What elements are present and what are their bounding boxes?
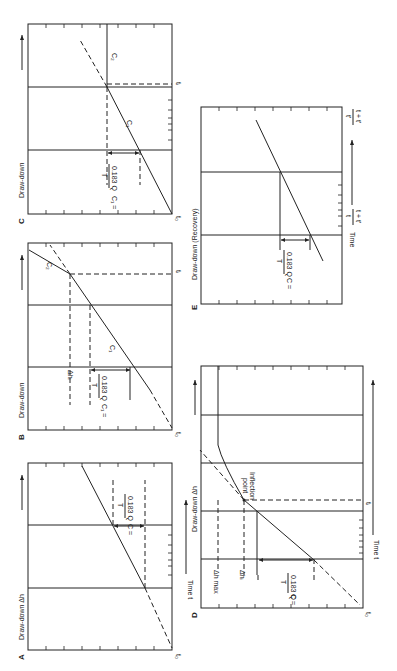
panel-b-c2-label: C₂ bbox=[46, 262, 53, 270]
panel-d-delta-max-label: Δh max bbox=[213, 570, 220, 594]
panel-d-xaxis-label: Time t bbox=[373, 540, 380, 559]
panel-d-delta-label: Δhᵢ bbox=[239, 570, 246, 580]
panel-d-label: D bbox=[190, 612, 199, 618]
panel-b-c1-label: C₁ bbox=[109, 345, 116, 353]
panel-a-formula-num: 0.183 Q bbox=[126, 496, 134, 521]
panel-c-formula-den: T bbox=[101, 173, 108, 178]
panel-c-label: C bbox=[17, 218, 26, 224]
panel-c-c2-label: C₂ bbox=[111, 53, 118, 61]
diagram-canvas: C₂ C₁ 0.183 Q T C₁ = t₀ tᵢ Draw-down C bbox=[0, 0, 397, 671]
panel-e-label: E bbox=[190, 304, 199, 310]
panel-d-ti-label: tᵢ bbox=[365, 502, 372, 505]
panel-e-formula-den: T bbox=[276, 259, 283, 264]
panel-d-formula-den: T bbox=[280, 580, 287, 585]
panel-e-formula-num: 0.183 Q bbox=[285, 252, 293, 277]
panel-d-slope-label: C = bbox=[290, 594, 297, 605]
panel-a-yaxis-label: Draw-down Δh bbox=[18, 594, 25, 640]
axis-arrows bbox=[20, 35, 197, 510]
panel-c-t0-label: t₀ bbox=[175, 216, 182, 221]
panel-b-formula-den: T bbox=[91, 383, 98, 388]
panel-c-ti-label: tᵢ bbox=[175, 82, 182, 85]
panel-e-xaxis-label: Time bbox=[349, 232, 356, 247]
panel-b-slope-label: C₁ = bbox=[101, 404, 108, 417]
panel-e: 0.183 Q T C = Time t + t' t t + t' t' Dr… bbox=[190, 107, 362, 310]
panel-d-annotation-line1: Inflection bbox=[249, 472, 256, 500]
panel-a-t0-label: t₀ bbox=[175, 654, 182, 659]
panel-b-yaxis-label: Draw-down bbox=[18, 382, 25, 418]
panel-e-x-left-num: t + t' bbox=[355, 210, 362, 223]
panel-b-label: B bbox=[17, 434, 26, 440]
panel-d-t0-label: t₀ bbox=[365, 612, 372, 617]
panel-c: C₂ C₁ 0.183 Q T C₁ = t₀ tᵢ Draw-down C bbox=[17, 24, 182, 224]
panel-b-t0-label: t₀ bbox=[175, 432, 182, 437]
panel-c-slope-label: C₁ = bbox=[111, 196, 118, 209]
panel-e-x-right-den: t' bbox=[345, 115, 352, 118]
panel-a: 0.183 Q T C = t₀ Time t Draw-down Δh A bbox=[17, 463, 194, 660]
panel-c-formula-num: 0.183 Q bbox=[110, 166, 118, 191]
panel-a-formula-den: T bbox=[117, 503, 124, 508]
panel-b-ti-label: tᵢ bbox=[175, 270, 182, 273]
panel-c-yaxis-label: Draw-down bbox=[18, 162, 25, 198]
panel-a-xaxis-label: Time t bbox=[187, 580, 194, 599]
panel-c-c1-label: C₁ bbox=[126, 120, 133, 128]
panel-a-slope-label: C = bbox=[127, 524, 134, 535]
panel-d: Inflection point Δh max Δhᵢ 0.183 Q T C … bbox=[190, 366, 380, 618]
panel-e-x-right-num: t + t' bbox=[355, 110, 362, 123]
panel-e-slope-label: C = bbox=[286, 278, 293, 289]
panel-b: C₂ C₁ Δhᵢ 0.183 Q T C₁ = t₀ tᵢ Draw-down… bbox=[17, 243, 182, 440]
panel-b-delta-label: Δhᵢ bbox=[67, 370, 74, 380]
panel-b-formula-num: 0.183 Q bbox=[100, 376, 108, 401]
panel-e-x-left-den: t bbox=[345, 215, 352, 217]
panel-d-annotation-line2: point bbox=[241, 478, 249, 493]
panel-a-label: A bbox=[17, 654, 26, 660]
panel-e-yaxis-label: Draw-down (Recovery) bbox=[191, 208, 199, 280]
panel-d-yaxis-label: Draw-down Δh bbox=[191, 486, 198, 532]
